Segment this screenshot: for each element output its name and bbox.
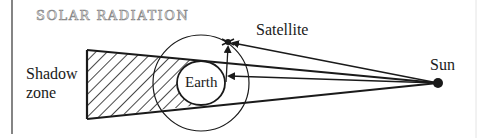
earth-to-satellite-arrow [226, 47, 228, 82]
diagram-title: SOLAR RADIATION [36, 8, 189, 23]
satellite-icon [222, 39, 234, 45]
shadow-zone-label: Shadow zone [26, 64, 78, 102]
sun-label: Sun [430, 55, 455, 74]
satellite-label: Satellite [256, 20, 308, 39]
sun-icon [433, 78, 443, 88]
solar-radiation-diagram: SOLAR RADIATION Satellite Sun Shadow zon… [0, 0, 479, 138]
shadow-zone-label-line2: zone [26, 83, 78, 102]
shadow-zone-label-line1: Shadow [26, 64, 78, 83]
earth-label: Earth [185, 73, 217, 92]
